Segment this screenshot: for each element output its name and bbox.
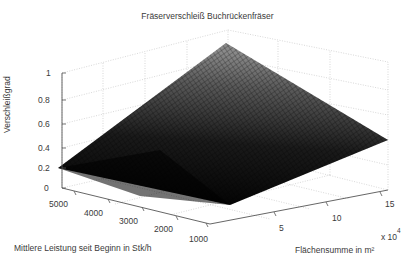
plot-canvas — [0, 0, 415, 268]
x-axis-label: Flächensumme in m² — [295, 245, 374, 255]
z-tick: 0.4 — [38, 143, 50, 153]
z-tick: 0.6 — [38, 119, 50, 129]
y-tick: 1000 — [189, 234, 208, 244]
z-tick: 1 — [46, 68, 51, 78]
z-axis-label: Verschleißgrad — [2, 76, 12, 133]
z-tick: 0 — [44, 183, 49, 193]
y-tick: 5000 — [49, 199, 68, 209]
x-exponent-label: x 104 — [381, 230, 401, 242]
x-multiplier-exp: 4 — [397, 227, 401, 234]
z-tick: 0.8 — [38, 95, 50, 105]
y-tick: 4000 — [84, 208, 103, 218]
chart-title: Fräserverschleiß Buchrückenfräser — [0, 11, 415, 21]
y-tick: 2000 — [154, 224, 173, 234]
x-multiplier-base: x 10 — [381, 232, 397, 242]
y-axis-label: Mittlere Leistung seit Beginn in Stk/h — [14, 243, 152, 253]
x-tick: 10 — [332, 213, 341, 223]
x-tick: 15 — [385, 199, 394, 209]
y-tick: 3000 — [119, 216, 138, 226]
wear-surface — [58, 43, 388, 205]
surface-figure: Fräserverschleiß Buchrückenfräser Versch… — [0, 0, 415, 268]
x-tick: 5 — [279, 223, 284, 233]
z-tick: 0.2 — [38, 163, 50, 173]
